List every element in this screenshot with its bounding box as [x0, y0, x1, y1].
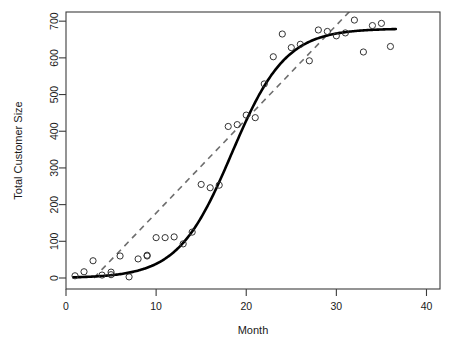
x-axis-tick-label: 20: [240, 300, 252, 312]
chart-figure: 0102030400100200300400500600700 MonthTot…: [0, 0, 452, 347]
x-axis-tick-label: 0: [63, 300, 69, 312]
y-axis-tick-label: 600: [48, 49, 60, 67]
y-axis-tick-label: 200: [48, 196, 60, 214]
y-axis-tick-label: 500: [48, 86, 60, 104]
plot-background: [0, 0, 452, 347]
x-axis-tick-label: 40: [421, 300, 433, 312]
y-axis-tick-label: 100: [48, 232, 60, 250]
chart-canvas: 0102030400100200300400500600700 MonthTot…: [0, 0, 452, 347]
x-axis-title: Month: [238, 324, 269, 336]
y-axis-title: Total Customer Size: [12, 101, 24, 199]
y-axis-tick-label: 700: [48, 12, 60, 30]
y-axis-tick-label: 300: [48, 159, 60, 177]
y-axis-tick-label: 400: [48, 122, 60, 140]
y-axis-tick-label: 0: [48, 275, 60, 281]
x-axis-tick-label: 10: [150, 300, 162, 312]
x-axis-tick-label: 30: [331, 300, 343, 312]
